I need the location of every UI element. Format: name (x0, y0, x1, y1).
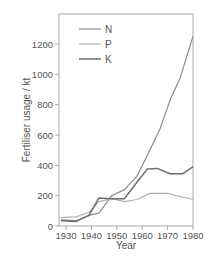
y-axis-label: Fertiliser usage / kt (21, 78, 32, 163)
line-chart: 020040060080010001200 193019401950196019… (0, 0, 210, 264)
series-line-p (61, 193, 193, 217)
legend: NPK (79, 24, 112, 65)
series-lines (61, 36, 193, 221)
x-axis-label: Year (116, 240, 137, 251)
series-line-n (61, 36, 193, 220)
legend-label-k: K (105, 54, 112, 65)
x-tick-label: 1930 (55, 230, 76, 241)
y-axis: 020040060080010001200 (32, 39, 59, 232)
y-tick-label: 1000 (32, 69, 53, 80)
y-tick-label: 0 (48, 221, 53, 232)
x-tick-label: 1980 (182, 230, 203, 241)
x-tick-label: 1970 (157, 230, 178, 241)
y-tick-label: 200 (37, 190, 53, 201)
y-tick-label: 400 (37, 160, 53, 171)
y-tick-label: 800 (37, 99, 53, 110)
legend-label-p: P (105, 39, 112, 50)
x-tick-label: 1940 (81, 230, 102, 241)
series-line-k (61, 167, 193, 222)
legend-label-n: N (105, 24, 112, 35)
y-tick-label: 1200 (32, 39, 53, 50)
x-axis: 193019401950196019701980 (55, 226, 203, 241)
y-tick-label: 600 (37, 130, 53, 141)
